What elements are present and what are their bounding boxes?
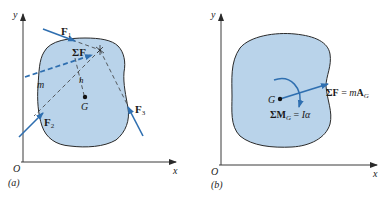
- origin-label-a: O: [13, 163, 20, 174]
- force-equation: ΣF = mAG: [326, 87, 369, 100]
- rigid-body-b: [232, 34, 331, 148]
- panel-caption-a: (a): [8, 177, 20, 189]
- force-f1-label: F1: [61, 25, 72, 39]
- resultant-label: ΣF: [72, 46, 86, 58]
- origin-label-b: O: [211, 166, 218, 177]
- panel-a: y x O (a) m G h ΣF F1 F2 F3: [8, 9, 178, 189]
- x-axis-label-b: x: [372, 168, 378, 179]
- center-of-mass-point-b: [278, 97, 282, 101]
- rigid-body-dynamics-figure: y x O (a) m G h ΣF F1 F2 F3 y x O (b) G …: [0, 0, 390, 202]
- center-label-b: G: [268, 94, 275, 105]
- y-axis-label-a: y: [12, 9, 18, 20]
- panel-caption-b: (b): [211, 179, 223, 191]
- center-of-mass-point-a: [83, 95, 87, 99]
- center-label-a: G: [81, 101, 88, 112]
- y-axis-label-b: y: [210, 9, 216, 20]
- moment-arm-label: h: [79, 75, 84, 85]
- force-f3-label: F3: [135, 103, 146, 117]
- mass-label: m: [37, 79, 44, 90]
- panel-b: y x O (b) G ΣF = mAG ΣMG = Iα: [210, 9, 378, 191]
- x-axis-label-a: x: [172, 165, 178, 176]
